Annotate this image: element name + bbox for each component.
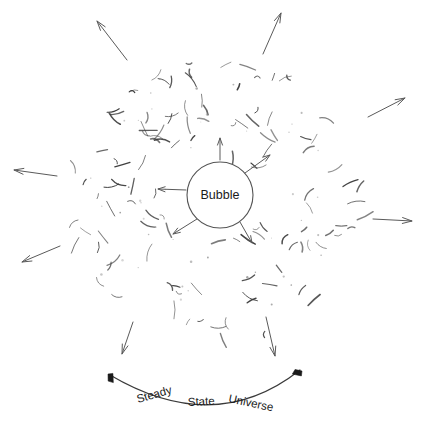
galaxy-dot [290, 284, 292, 286]
galaxy-mark [307, 240, 310, 250]
galaxy-mark [81, 228, 91, 235]
galaxy-mark [326, 230, 334, 235]
galaxy-mark [299, 285, 306, 294]
galaxy-dot [150, 92, 151, 93]
galaxy-mark [348, 227, 355, 229]
inner-arrow-lower-left-shaft [173, 219, 197, 234]
galaxy-mark [186, 319, 189, 325]
galaxy-mark [202, 94, 203, 107]
galaxy-mark [139, 156, 146, 170]
galaxy-mark [166, 223, 171, 237]
galaxy-dot [190, 260, 193, 263]
caption-word-2: Universe [228, 392, 275, 413]
galaxy-mark [70, 220, 79, 227]
galaxy-mark [220, 334, 226, 348]
galaxy-mark [70, 161, 75, 174]
galaxy-mark [211, 327, 226, 329]
galaxy-mark [308, 295, 320, 306]
galaxy-mark [131, 90, 138, 91]
galaxy-mark [128, 201, 136, 204]
galaxy-mark [240, 64, 256, 70]
galaxy-dot [232, 84, 234, 86]
galaxy-dot [291, 123, 292, 124]
steady-state-universe-figure: Bubble SteadyStateUniverse [0, 0, 430, 430]
inner-arrow-lower-left-head [173, 228, 180, 234]
galaxy-dot [140, 202, 142, 204]
galaxy-mark [231, 123, 236, 126]
galaxy-dot [109, 112, 111, 114]
galaxy-mark [108, 262, 111, 270]
galaxy-mark [260, 223, 267, 232]
galaxy-dot [301, 112, 303, 114]
galaxy-mark [146, 113, 148, 123]
galaxy-dot [188, 290, 189, 291]
galaxy-dot [271, 238, 272, 239]
outer-arrow-west-lower-shaft [22, 246, 60, 262]
outer-arrow-north-west-shaft [97, 21, 127, 60]
galaxy-dot [139, 200, 141, 202]
galaxy-dot [108, 113, 109, 114]
galaxy-dot [207, 257, 209, 259]
galaxy-dot [317, 150, 318, 151]
galaxy-dot [143, 218, 145, 220]
inner-arrow-left-shaft [158, 189, 186, 190]
caption-word-1: State [187, 395, 214, 408]
galaxy-mark [301, 137, 311, 140]
galaxy-mark [305, 189, 314, 201]
galaxy-mark [301, 242, 303, 252]
galaxy-dot [138, 120, 139, 121]
bubble-label: Bubble [201, 188, 240, 202]
galaxy-mark [141, 221, 156, 227]
inner-arrow-lower-right-shaft [240, 222, 252, 243]
galaxy-mark [247, 115, 259, 127]
galaxy-mark [255, 107, 258, 113]
galaxy-mark [168, 114, 172, 124]
galaxy-mark [328, 165, 342, 173]
galaxy-mark [234, 238, 240, 241]
galaxy-mark [98, 231, 108, 243]
galaxy-dot [206, 113, 208, 115]
galaxy-dot [301, 220, 302, 221]
galaxy-mark [98, 242, 100, 252]
outer-arrow-east-upper-shaft [368, 98, 405, 117]
galaxy-mark [154, 189, 156, 198]
galaxy-mark [112, 179, 126, 185]
galaxy-mark [184, 101, 187, 116]
galaxy-dot [181, 286, 183, 288]
galaxy-mark [171, 141, 179, 148]
galaxy-dot [320, 254, 322, 256]
caption-word-0: Steady [135, 383, 173, 404]
galaxy-mark [343, 180, 358, 187]
caption-steady-state-universe: SteadyStateUniverse [135, 383, 274, 413]
galaxy-mark [114, 159, 117, 164]
galaxy-mark [212, 240, 226, 244]
galaxy-mark [348, 201, 365, 204]
galaxy-mark [272, 73, 274, 80]
galaxy-dot [121, 259, 123, 261]
galaxy-mark [198, 118, 209, 121]
galaxy-mark [107, 201, 115, 216]
galaxy-dot [288, 131, 290, 133]
galaxy-dot [246, 276, 248, 278]
bubble-node[interactable]: Bubble [187, 162, 253, 228]
galaxy-mark [271, 130, 277, 141]
galaxy-mark [302, 227, 307, 232]
outer-arrow-south-east-shaft [266, 317, 275, 356]
galaxy-dot [151, 108, 152, 109]
outer-arrow-east-upper-head [395, 98, 405, 105]
galaxy-mark [242, 275, 254, 281]
galaxy-mark [97, 278, 104, 287]
galaxy-dot [159, 79, 160, 80]
galaxy-dot [100, 273, 103, 276]
galaxy-dot [195, 87, 198, 90]
galaxy-mark [191, 283, 201, 295]
galaxy-mark [167, 283, 172, 291]
galaxy-mark [303, 146, 314, 152]
galaxy-mark [83, 179, 86, 184]
galaxy-dot [246, 130, 247, 131]
galaxy-mark [186, 63, 192, 64]
galaxy-mark [225, 318, 228, 329]
galaxy-dot [173, 239, 174, 240]
galaxy-dot [119, 212, 121, 214]
galaxy-dot [271, 304, 273, 306]
